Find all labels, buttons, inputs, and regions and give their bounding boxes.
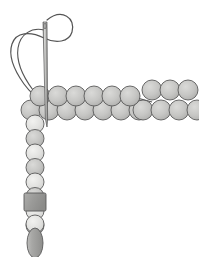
bead-row-top-right-0 — [142, 80, 162, 100]
bead-row-top-left-5 — [120, 86, 140, 106]
bead-row-top-left-1 — [48, 86, 68, 106]
bead-column — [24, 115, 46, 257]
bead-column-oval-drop — [27, 228, 43, 257]
bead-row-top-right-1 — [160, 80, 180, 100]
bead-row-bottom-right-3 — [187, 100, 199, 120]
bead-row-bottom-right-2 — [169, 100, 189, 120]
bead-column-square — [24, 193, 46, 211]
bead-row-top-left-2 — [66, 86, 86, 106]
bead-row-bottom-right-1 — [151, 100, 171, 120]
beading-diagram-canvas — [0, 0, 199, 257]
beading-illustration — [0, 0, 199, 257]
bead-row-top-left-3 — [84, 86, 104, 106]
bead-row-top-right-2 — [178, 80, 198, 100]
thread-loop-path — [11, 15, 73, 97]
bead-row-top-left-4 — [102, 86, 122, 106]
